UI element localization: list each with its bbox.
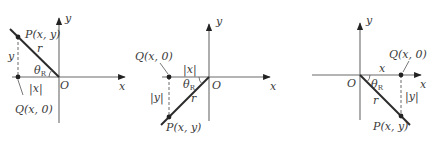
point-q bbox=[16, 75, 21, 80]
point-p-label: P(x, y) bbox=[372, 120, 408, 133]
x-axis-label: x bbox=[270, 80, 277, 93]
angle-label: θR bbox=[34, 64, 47, 78]
panel-quadrant-3: y x O P(x, y) Q(x, 0) r θR |x| |y| bbox=[135, 15, 277, 134]
vertical-leg-label: y bbox=[7, 50, 15, 63]
point-q-label: Q(x, 0) bbox=[389, 48, 427, 61]
point-q bbox=[399, 73, 404, 78]
radius-label: r bbox=[37, 42, 43, 55]
point-p-label: P(x, y) bbox=[24, 28, 60, 41]
point-p bbox=[399, 114, 404, 119]
radius-label: r bbox=[373, 94, 379, 107]
y-axis-label: y bbox=[365, 14, 373, 27]
origin-label: O bbox=[212, 79, 221, 92]
q-leader-line bbox=[160, 63, 168, 74]
point-p-label: P(x, y) bbox=[165, 121, 201, 134]
origin-label: O bbox=[347, 77, 356, 90]
y-axis-label: y bbox=[215, 15, 223, 28]
point-q-label: Q(x, 0) bbox=[15, 103, 53, 116]
angle-label: θR bbox=[371, 78, 384, 92]
x-axis-label: x bbox=[119, 80, 126, 93]
radius-label: r bbox=[191, 92, 197, 105]
point-p bbox=[16, 35, 21, 40]
panel-quadrant-2: y x O P(x, y) Q(x, 0) r θR |x| y bbox=[7, 12, 126, 123]
q-leader-line bbox=[403, 61, 409, 72]
y-axis-label: y bbox=[64, 12, 72, 25]
angle-arc bbox=[49, 70, 52, 77]
angle-arc bbox=[199, 77, 202, 84]
point-q-label: Q(x, 0) bbox=[135, 50, 173, 63]
reference-angle-figure: y x O P(x, y) Q(x, 0) r θR |x| y y x O P… bbox=[0, 0, 437, 143]
horizontal-leg-label: |x| bbox=[29, 82, 43, 96]
x-axis-label: x bbox=[420, 78, 427, 91]
vertical-leg-label: |y| bbox=[150, 91, 164, 105]
point-p bbox=[167, 115, 172, 120]
angle-arc bbox=[367, 75, 370, 82]
panel-quadrant-4: y x O P(x, y) Q(x, 0) r θR x |y| bbox=[312, 14, 427, 133]
q-leader-line bbox=[18, 80, 23, 95]
horizontal-leg-label: |x| bbox=[183, 63, 197, 77]
point-q bbox=[167, 75, 172, 80]
origin-label: O bbox=[60, 79, 69, 92]
horizontal-leg-label: x bbox=[379, 62, 386, 75]
vertical-leg-label: |y| bbox=[405, 90, 419, 104]
angle-label: θR bbox=[183, 78, 196, 92]
